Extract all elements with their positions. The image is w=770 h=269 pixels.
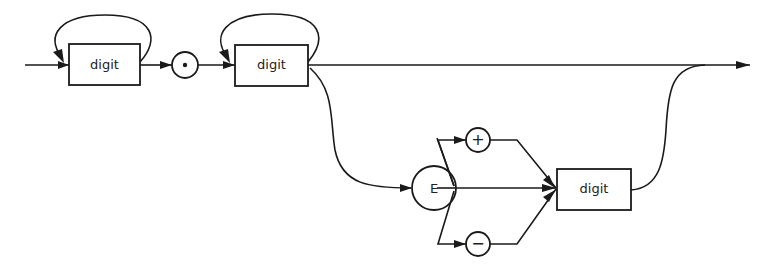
fraction-digit-box: digit: [235, 45, 308, 86]
exponent-label: E: [430, 181, 438, 196]
minus-icon: −: [471, 234, 484, 253]
exponent-digit-label: digit: [580, 181, 609, 196]
decimal-point-node: [172, 52, 198, 78]
integer-digit-label: digit: [90, 57, 119, 72]
plus-icon: +: [471, 130, 484, 149]
syntax-diagram: digit digit E: [0, 0, 770, 269]
exponent-digit-box: digit: [557, 169, 631, 210]
fraction-digit-label: digit: [257, 57, 286, 72]
path-plus-to-digit: [490, 140, 556, 188]
minus-node: −: [466, 232, 490, 256]
path-minus-to-digit: [490, 189, 556, 244]
path-exponent-to-exit: [631, 65, 705, 190]
path-to-decimal-point: [140, 61, 172, 69]
main-exit-path: [308, 61, 750, 69]
path-to-exponent: [310, 68, 412, 192]
decimal-point-icon: [183, 63, 187, 67]
integer-digit-box: digit: [69, 44, 140, 85]
plus-node: +: [466, 128, 490, 152]
path-e-to-digit: [456, 184, 556, 192]
entry-path: [25, 61, 69, 69]
